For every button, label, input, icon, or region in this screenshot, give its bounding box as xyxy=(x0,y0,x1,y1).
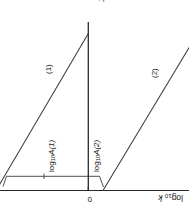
plot-canvas xyxy=(0,0,189,212)
origin-label-text: 0 xyxy=(88,195,92,204)
y-axis-label: 1/T xyxy=(97,0,106,2)
curve-label-2: (2) xyxy=(151,68,159,78)
curve-label-2-text: (2) xyxy=(150,68,159,78)
x-axis-label-subscript: 10 xyxy=(165,193,172,200)
intercept-label-1-prefix: log xyxy=(47,161,56,172)
x-axis-label-prefix: log xyxy=(172,193,183,203)
origin-label: 0 xyxy=(88,195,92,203)
curve-line-2 xyxy=(103,46,189,191)
curve-label-1: (1) xyxy=(45,64,53,74)
intercept-label-2-suffix: A(2) xyxy=(92,140,101,155)
y-axis-label-text: 1/T xyxy=(96,0,106,2)
x-axis-label-suffix: k xyxy=(158,193,165,203)
intercept-label-1: log10A(1) xyxy=(48,140,57,172)
x-axis-label: log10 k xyxy=(158,193,183,202)
arrhenius-schematic-figure: 1/T log10 k 0 (1) (2) log10A(1) log10A(2… xyxy=(0,0,189,212)
intercept-label-2-subscript: 10 xyxy=(95,155,101,161)
intercept-label-2: log10A(2) xyxy=(93,140,102,172)
intercept-label-1-subscript: 10 xyxy=(50,155,56,161)
intercept-label-2-prefix: log xyxy=(92,161,101,172)
curve-line-1 xyxy=(0,34,88,191)
intercept-label-1-suffix: A(1) xyxy=(47,140,56,155)
curve-label-1-text: (1) xyxy=(44,64,53,74)
bracket-intercept-2-end-right xyxy=(100,176,104,187)
